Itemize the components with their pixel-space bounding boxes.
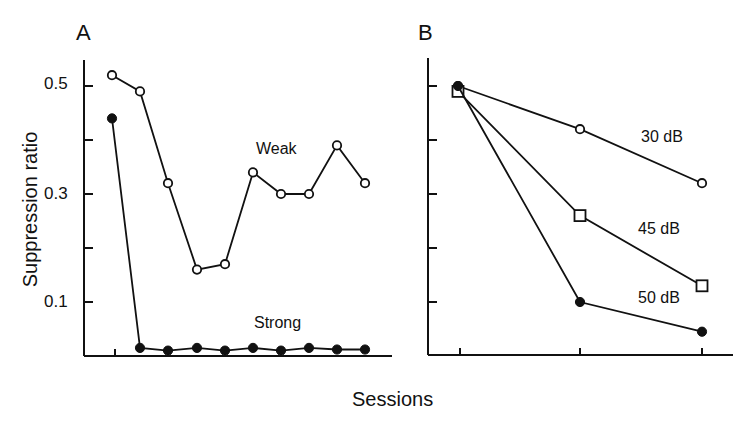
open-circle-marker-icon [333, 141, 341, 149]
series-label-strong: Strong [254, 314, 301, 332]
series-label-50db: 50 dB [638, 289, 680, 307]
open-circle-marker-icon [164, 179, 172, 187]
x-axis-label: Sessions [352, 388, 433, 411]
series-line-weak [112, 75, 365, 269]
open-circle-marker-icon [277, 190, 285, 198]
y-tick-label-0-5: 0.5 [44, 74, 68, 94]
filled-circle-marker-icon [163, 346, 172, 355]
filled-circle-marker-icon [135, 343, 144, 352]
open-square-marker-icon [575, 210, 586, 221]
y-tick-label-0-3: 0.3 [44, 184, 68, 204]
open-circle-marker-icon [361, 179, 369, 187]
filled-circle-marker-icon [453, 81, 462, 90]
panel-b-plot [428, 58, 733, 355]
filled-circle-marker-icon [192, 343, 201, 352]
filled-circle-marker-icon [304, 343, 313, 352]
series-line-45-db [458, 91, 702, 285]
y-axis-label: Suppression ratio [19, 125, 42, 295]
open-circle-marker-icon [221, 260, 229, 268]
open-circle-marker-icon [193, 265, 201, 273]
filled-circle-marker-icon [107, 114, 116, 123]
open-circle-marker-icon [576, 125, 584, 133]
filled-circle-marker-icon [248, 343, 257, 352]
series-label-weak: Weak [256, 140, 297, 158]
filled-circle-marker-icon [276, 346, 285, 355]
y-tick-label-0-1: 0.1 [44, 292, 68, 312]
filled-circle-marker-icon [220, 346, 229, 355]
panel-a-plot [84, 60, 392, 356]
filled-circle-marker-icon [575, 297, 584, 306]
open-circle-marker-icon [698, 179, 706, 187]
panel-b-label: B [418, 20, 433, 46]
open-circle-marker-icon [249, 168, 257, 176]
filled-circle-marker-icon [332, 345, 341, 354]
open-square-marker-icon [697, 280, 708, 291]
series-line-strong [112, 118, 365, 350]
series-label-45db: 45 dB [638, 220, 680, 238]
filled-circle-marker-icon [360, 345, 369, 354]
open-circle-marker-icon [136, 87, 144, 95]
open-circle-marker-icon [108, 71, 116, 79]
series-label-30db: 30 dB [641, 128, 683, 146]
figure-canvas [0, 0, 741, 422]
panel-a-label: A [76, 20, 91, 46]
open-circle-marker-icon [305, 190, 313, 198]
filled-circle-marker-icon [697, 327, 706, 336]
